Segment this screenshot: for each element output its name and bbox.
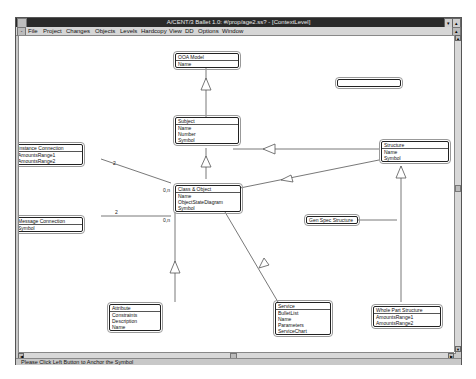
class-header: Message Connection [18,218,82,225]
multiplicity-label: 2 [113,160,116,166]
class-attribute: Symbol [382,155,448,161]
class-box-instance-connection[interactable]: Instance Connection AmountsRange1 Amount… [18,144,83,165]
status-bar: Please Click Left Button to Anchor the S… [16,358,461,365]
menu-file[interactable]: File [28,27,38,35]
class-box-subject[interactable]: Subject Name Number Symbol [175,117,239,144]
class-attribute: ServiceChart [276,328,330,334]
class-header: Service [276,303,330,310]
class-box-whole-part-structure[interactable]: Whole Part Structure AmountsRange1 Amoun… [373,306,441,327]
menu-dd[interactable]: DD [185,27,194,35]
class-box-attribute[interactable]: Attribute Constraints Description Name [109,304,161,331]
class-box-service[interactable]: Service BulletList Name Parameters Servi… [275,302,331,335]
vertical-scroll-thumb[interactable] [455,185,461,192]
menu-objects[interactable]: Objects [95,27,115,35]
menu-options[interactable]: Options [198,27,219,35]
application-window: A/CENT/3 Ballet 1.0: #/prop/age2.ss? - [… [15,17,462,365]
class-header: Class & Object [176,186,240,193]
class-box-ooa-model[interactable]: OOA Model Name [175,53,239,68]
class-attribute: AmountsRange2 [374,320,440,326]
class-attribute: AmountsRange2 [18,158,82,164]
vertical-scrollbar[interactable]: ▲ ▼ [454,35,461,352]
menu-levels[interactable]: Levels [120,27,137,35]
class-box-gen-spec-structure[interactable]: Gen Spec Structure [306,216,358,224]
multiplicity-label: 0,n [163,217,170,223]
class-attribute: Name [110,324,160,330]
class-header: Whole Part Structure [374,307,440,314]
class-header: Subject [176,118,238,125]
diagram-canvas[interactable]: OOA Model Name Subject Name Number Symbo… [18,35,456,354]
class-header: Structure [382,142,448,149]
menu-changes[interactable]: Changes [66,27,90,35]
menu-view[interactable]: View [169,27,182,35]
multiplicity-label: 0,n [163,187,170,193]
class-attribute: Symbol [176,137,238,143]
class-box-class-object[interactable]: Class & Object Name ObjectStateDiagram S… [175,185,241,212]
multiplicity-label: 2 [115,209,118,215]
generalization-arrow-icon [201,78,211,90]
class-attribute: Symbol [18,225,82,231]
class-header: Instance Connection [18,145,82,152]
title-bar[interactable]: A/CENT/3 Ballet 1.0: #/prop/age2.ss? - [… [16,18,461,27]
class-box-structure[interactable]: Structure Name Symbol [381,141,449,162]
status-text: Please Click Left Button to Anchor the S… [21,359,133,365]
class-header: OOA Model [176,54,238,61]
menu-hardcopy[interactable]: Hardcopy [141,27,167,35]
class-attribute: Name [176,61,238,67]
menu-project[interactable]: Project [43,27,62,35]
class-box-empty[interactable] [337,79,401,87]
class-attribute: Symbol [176,205,240,211]
scroll-down-arrow-icon[interactable]: ▼ [455,346,461,352]
class-header: Attribute [110,305,160,312]
menu-window[interactable]: Window [222,27,243,35]
class-box-message-connection[interactable]: Message Connection Symbol [18,217,83,232]
window-title: A/CENT/3 Ballet 1.0: #/prop/age2.ss? - [… [16,18,461,27]
class-header: Gen Spec Structure [307,217,357,223]
scroll-up-arrow-icon[interactable]: ▲ [455,35,461,41]
